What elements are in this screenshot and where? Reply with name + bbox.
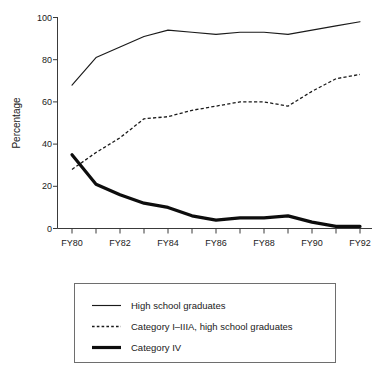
x-tick-label-fy82: FY82 [109,238,131,248]
y-tick-label-60: 60 [42,97,52,107]
y-tick-label-20: 20 [42,181,52,191]
x-tick-label-fy88: FY88 [253,238,275,248]
series-high-school-graduates [72,22,360,85]
y-tick-label-80: 80 [42,55,52,65]
x-tick-label-fy90: FY90 [301,238,323,248]
y-tick-label-40: 40 [42,139,52,149]
y-tick-label-100: 100 [37,13,52,23]
series-category-iv [72,155,360,227]
x-axis-ticks [72,229,360,234]
legend-label-category-i-iiia-hs-grads: Category I–IIIA, high school graduates [131,321,293,332]
legend-label-category-iv: Category IV [131,342,182,353]
y-axis-title: Percentage [11,97,22,149]
series-category-i-iiia-hs-grads [72,74,360,169]
y-tick-label-0: 0 [47,224,52,234]
x-tick-label-fy80: FY80 [61,238,83,248]
plot-series-group [72,22,360,227]
chart-figure: Percentage 100 80 60 40 20 0 [0,0,381,374]
chart-legend: High school graduates Category I–IIIA, h… [75,284,336,363]
x-tick-label-fy92: FY92 [349,238,371,248]
chart-svg: Percentage 100 80 60 40 20 0 [0,0,381,374]
x-tick-label-fy84: FY84 [157,238,179,248]
x-tick-label-fy86: FY86 [205,238,227,248]
legend-label-high-school-graduates: High school graduates [131,300,226,311]
